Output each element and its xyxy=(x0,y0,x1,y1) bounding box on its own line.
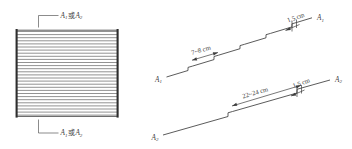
upper-stepped-line xyxy=(167,18,313,77)
dimension-lower-spacing-label: 22~24 cm xyxy=(241,85,269,99)
upper-line-right-label-a1: A1 xyxy=(316,14,324,23)
bottom-leader-line xyxy=(39,120,59,134)
lower-line-left-label-a2: A2 xyxy=(151,134,159,143)
svg-text:A1: A1 xyxy=(154,76,162,85)
svg-text:A1: A1 xyxy=(316,14,324,23)
svg-text:A2: A2 xyxy=(334,76,342,85)
dimension-lower-spacing: 22~24 cm xyxy=(232,85,301,106)
bottom-label-a1-or-a2: A1或A2 xyxy=(60,128,83,138)
top-label-a1-or-a2: A1或A2 xyxy=(60,11,83,21)
dimension-lower-notch: 1.5 cm xyxy=(291,76,312,97)
lower-stepped-line xyxy=(163,80,330,135)
dimension-upper-notch: 1.5 cm xyxy=(286,11,307,32)
hatch-lines xyxy=(16,32,118,116)
svg-text:A1或A2: A1或A2 xyxy=(60,11,83,21)
lower-line-right-label-a2: A2 xyxy=(334,76,342,85)
svg-text:A1或A2: A1或A2 xyxy=(60,128,83,138)
right-panel-group: A1 A1 7~8 cm 1.5 c xyxy=(151,11,343,143)
top-label-sub-2: 2 xyxy=(80,15,83,20)
upper-line-left-label-a1: A1 xyxy=(154,76,162,85)
top-leader-line xyxy=(39,16,59,28)
top-label-or-cjk: 或 xyxy=(68,11,75,20)
figure-root: A1或A2 A1或A2 A1 xyxy=(0,0,352,149)
upper-right-a-sub: 1 xyxy=(321,18,324,23)
lower-left-a-sub: 2 xyxy=(156,137,159,142)
upper-left-a-sub: 1 xyxy=(159,79,162,84)
bottom-label-sub-2: 2 xyxy=(80,133,83,138)
technical-diagram: A1或A2 A1或A2 A1 xyxy=(0,0,352,149)
dimension-upper-notch-label: 1.5 cm xyxy=(286,11,306,24)
dimension-upper-spacing-label: 7~8 cm xyxy=(190,43,212,56)
left-panel-group: A1或A2 A1或A2 xyxy=(16,11,118,138)
svg-text:A2: A2 xyxy=(151,134,159,143)
lower-right-a-sub: 2 xyxy=(339,79,342,84)
hatch-block-borders xyxy=(16,30,118,116)
bottom-label-or-cjk: 或 xyxy=(68,128,75,137)
